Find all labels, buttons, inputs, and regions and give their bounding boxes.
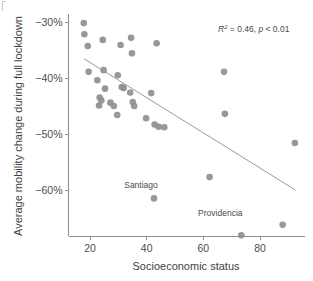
data-point: [238, 232, 245, 239]
data-point: [96, 102, 103, 109]
data-point: [114, 72, 121, 79]
data-point: [80, 20, 87, 27]
data-point: [120, 85, 127, 92]
data-point: [279, 221, 286, 228]
data-point: [221, 69, 228, 76]
x-axis-ticks: 20406080: [84, 237, 266, 254]
data-point: [81, 31, 88, 38]
trend-line: [84, 59, 295, 190]
data-point: [206, 174, 213, 181]
data-point: [114, 112, 121, 119]
y-tick-label: −40%: [35, 72, 62, 84]
data-point: [148, 90, 155, 97]
data-point: [94, 77, 101, 84]
data-point: [129, 50, 136, 57]
data-point: [128, 34, 135, 41]
y-tick-label: −50%: [35, 128, 62, 140]
x-tick-label: 20: [84, 242, 96, 254]
scatter-plot-figure: −30%−40%−50%−60% 20406080 SantiagoProvid…: [0, 0, 313, 281]
point-label: Providencia: [198, 208, 243, 218]
y-axis-title: Average mobility change during full lock…: [12, 16, 24, 236]
data-point: [84, 43, 91, 50]
x-tick-label: 40: [141, 242, 153, 254]
data-point: [99, 37, 106, 44]
plot-canvas: −30%−40%−50%−60% 20406080 SantiagoProvid…: [0, 0, 313, 281]
data-point: [111, 103, 118, 110]
data-points: [80, 20, 298, 239]
data-point: [155, 123, 162, 130]
point-labels: SantiagoProvidencia: [124, 180, 243, 218]
x-tick-label: 80: [254, 242, 266, 254]
data-point: [151, 195, 158, 202]
data-point: [143, 115, 150, 122]
data-point: [127, 89, 134, 96]
data-point: [131, 103, 138, 110]
axes: [69, 14, 306, 237]
r-squared-annotation: R2 = 0.46, p < 0.01: [218, 24, 290, 34]
data-point: [222, 111, 229, 118]
data-point: [292, 140, 299, 147]
y-tick-label: −60%: [35, 184, 62, 196]
data-point: [153, 40, 160, 47]
data-point: [102, 85, 109, 92]
regression-line: [84, 59, 295, 190]
point-label: Santiago: [124, 180, 158, 190]
data-point: [85, 69, 92, 76]
data-point: [161, 124, 168, 131]
x-tick-label: 60: [197, 242, 209, 254]
y-axis-ticks: −30%−40%−50%−60%: [35, 16, 68, 196]
y-tick-label: −30%: [35, 16, 62, 28]
x-axis-title: Socioeconomic status: [133, 260, 240, 272]
data-point: [117, 42, 124, 49]
